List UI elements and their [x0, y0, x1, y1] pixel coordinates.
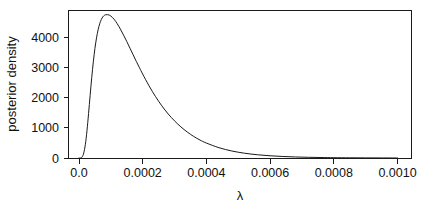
y-tick-label: 3000 [31, 61, 59, 75]
y-tick-label: 2000 [31, 91, 59, 105]
plot-frame [69, 11, 412, 159]
y-tick-label: 4000 [31, 31, 59, 45]
y-axis-ticks [64, 37, 69, 158]
posterior-density-curve [79, 15, 398, 158]
x-axis-ticks [79, 159, 398, 164]
x-axis-tick-labels: 0.00.00020.00040.00060.00080.0010 [70, 166, 416, 180]
x-axis-title: λ [237, 188, 244, 203]
chart-figure: 0.00.00020.00040.00060.00080.0010 010002… [0, 0, 434, 205]
x-tick-label: 0.0010 [378, 166, 416, 180]
x-tick-label: 0.0002 [124, 166, 162, 180]
y-axis-title: posterior density [4, 36, 19, 132]
y-tick-label: 0 [52, 152, 59, 166]
x-tick-label: 0.0008 [315, 166, 353, 180]
y-axis-tick-labels: 01000200030004000 [31, 31, 59, 166]
x-tick-label: 0.0 [70, 166, 87, 180]
x-tick-label: 0.0004 [187, 166, 225, 180]
x-tick-label: 0.0006 [251, 166, 289, 180]
y-tick-label: 1000 [31, 121, 59, 135]
posterior-density-plot: 0.00.00020.00040.00060.00080.0010 010002… [0, 0, 434, 205]
